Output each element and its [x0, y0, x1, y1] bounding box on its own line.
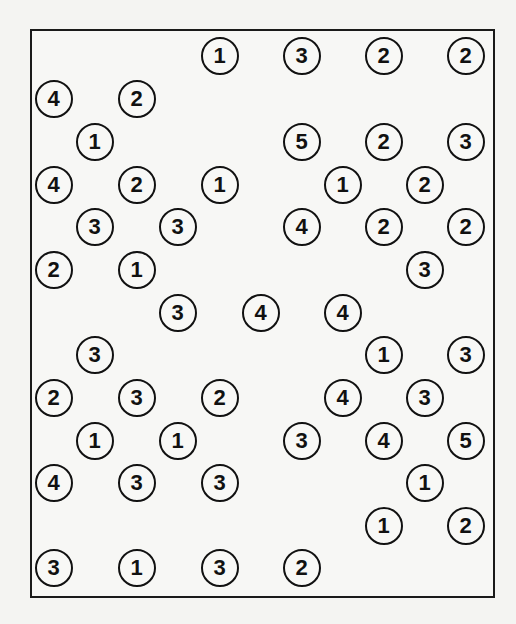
island[interactable]: 3 [159, 208, 197, 246]
island[interactable]: 1 [159, 422, 197, 460]
island[interactable]: 2 [118, 80, 156, 118]
island[interactable]: 4 [35, 80, 73, 118]
island[interactable]: 2 [447, 208, 485, 246]
island[interactable]: 4 [324, 379, 362, 417]
island[interactable]: 4 [35, 166, 73, 204]
island[interactable]: 2 [447, 507, 485, 545]
island[interactable]: 3 [201, 549, 239, 587]
island[interactable]: 2 [365, 37, 403, 75]
island[interactable]: 4 [365, 422, 403, 460]
island[interactable]: 5 [283, 123, 321, 161]
island[interactable]: 1 [324, 166, 362, 204]
island[interactable]: 3 [283, 422, 321, 460]
island[interactable]: 2 [283, 549, 321, 587]
island[interactable]: 3 [283, 37, 321, 75]
island[interactable]: 2 [35, 251, 73, 289]
island[interactable]: 3 [201, 464, 239, 502]
island[interactable]: 1 [365, 507, 403, 545]
island[interactable]: 3 [76, 336, 114, 374]
island[interactable]: 4 [35, 464, 73, 502]
island[interactable]: 1 [201, 37, 239, 75]
island[interactable]: 1 [406, 464, 444, 502]
island[interactable]: 4 [242, 294, 280, 332]
island[interactable]: 2 [35, 379, 73, 417]
island[interactable]: 3 [76, 208, 114, 246]
island[interactable]: 1 [365, 336, 403, 374]
island[interactable]: 1 [76, 123, 114, 161]
island[interactable]: 1 [76, 422, 114, 460]
island[interactable]: 2 [365, 208, 403, 246]
island[interactable]: 3 [118, 379, 156, 417]
island[interactable]: 3 [35, 549, 73, 587]
island[interactable]: 2 [201, 379, 239, 417]
island[interactable]: 5 [447, 422, 485, 460]
island[interactable]: 2 [447, 37, 485, 75]
island[interactable]: 2 [118, 166, 156, 204]
island[interactable]: 4 [324, 294, 362, 332]
island[interactable]: 3 [159, 294, 197, 332]
island[interactable]: 3 [447, 336, 485, 374]
island[interactable]: 3 [447, 123, 485, 161]
island[interactable]: 3 [406, 251, 444, 289]
island[interactable]: 1 [118, 251, 156, 289]
island[interactable]: 4 [283, 208, 321, 246]
island[interactable]: 3 [406, 379, 444, 417]
island[interactable]: 2 [365, 123, 403, 161]
island[interactable]: 1 [118, 549, 156, 587]
island[interactable]: 3 [118, 464, 156, 502]
island[interactable]: 1 [201, 166, 239, 204]
island[interactable]: 2 [406, 166, 444, 204]
